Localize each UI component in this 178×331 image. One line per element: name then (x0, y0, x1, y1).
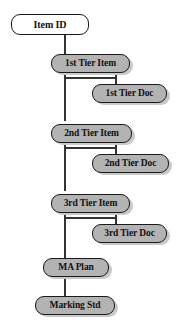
node-first-tier-doc[interactable]: 1st Tier Doc (92, 84, 167, 103)
node-ma-plan-label: MA Plan (58, 263, 93, 273)
node-second-tier-doc[interactable]: 2nd Tier Doc (92, 154, 169, 173)
node-marking-std[interactable]: Marking Std (35, 296, 115, 315)
diagram-canvas: Item ID 1st Tier Item 1st Tier Doc 2nd T… (0, 0, 178, 331)
edge-first-tier-item-to-doc-horizontal (64, 77, 117, 79)
node-first-tier-item-label: 1st Tier Item (65, 59, 116, 69)
node-first-tier-doc-label: 1st Tier Doc (106, 89, 154, 99)
node-second-tier-item-label: 2nd Tier Item (64, 129, 119, 139)
edge-item-id-to-first-tier-item (64, 34, 66, 56)
edge-first-tier-item-to-second-tier-item (64, 71, 66, 121)
node-third-tier-item[interactable]: 3rd Tier Item (51, 194, 130, 213)
node-second-tier-item[interactable]: 2nd Tier Item (51, 124, 132, 143)
node-second-tier-doc-label: 2nd Tier Doc (105, 159, 157, 169)
node-third-tier-item-label: 3rd Tier Item (64, 199, 118, 209)
edge-third-tier-item-to-doc-horizontal (64, 217, 117, 219)
node-third-tier-doc-label: 3rd Tier Doc (104, 229, 155, 239)
edge-second-tier-item-to-third-tier-item (64, 141, 66, 191)
edge-third-tier-item-to-ma-plan (64, 211, 66, 261)
node-marking-std-label: Marking Std (50, 301, 101, 311)
node-first-tier-item[interactable]: 1st Tier Item (51, 54, 130, 73)
node-ma-plan[interactable]: MA Plan (43, 258, 109, 277)
node-item-id-label: Item ID (34, 20, 67, 30)
edge-second-tier-item-to-doc-horizontal (64, 147, 117, 149)
node-third-tier-doc[interactable]: 3rd Tier Doc (92, 224, 167, 243)
node-item-id[interactable]: Item ID (11, 14, 89, 35)
